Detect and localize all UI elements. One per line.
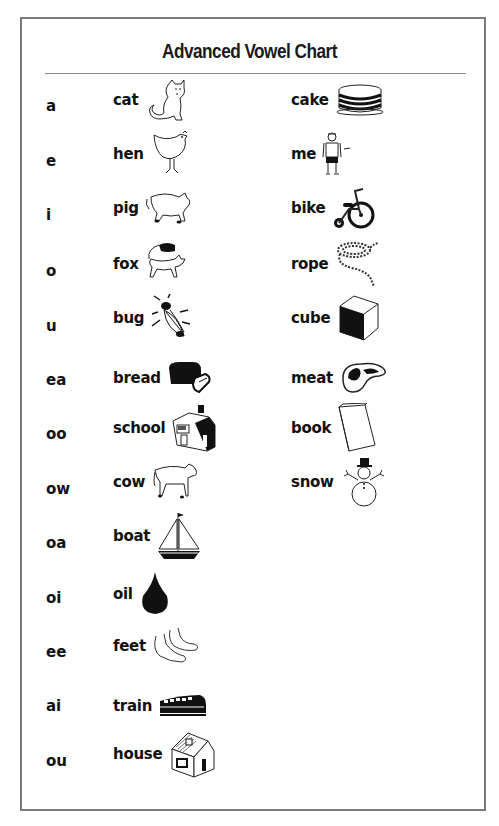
- word-label: boat: [113, 527, 150, 545]
- hen-icon: [150, 131, 194, 177]
- sound-label: oo: [46, 425, 67, 443]
- sound-label: u: [46, 317, 57, 335]
- word-label: house: [113, 745, 162, 763]
- word-entry: oil: [113, 574, 171, 614]
- word-label: cow: [113, 473, 145, 491]
- sound-label: oi: [46, 589, 61, 607]
- word-entry: train: [113, 686, 206, 726]
- sailboat-icon: [156, 511, 202, 561]
- sound-label: ee: [46, 643, 66, 661]
- word-label: meat: [291, 369, 333, 387]
- snowman-icon: [340, 456, 388, 508]
- word-entry: cube: [291, 298, 380, 338]
- sound-label: o: [46, 262, 56, 280]
- feet-icon: [152, 628, 200, 664]
- word-entry: hen: [113, 134, 194, 174]
- book-icon: [337, 403, 377, 453]
- bread-icon: [167, 362, 211, 394]
- word-entry: boat: [113, 516, 202, 556]
- word-label: rope: [291, 255, 328, 273]
- word-label: pig: [113, 199, 139, 217]
- word-entry: cake: [291, 80, 385, 120]
- word-label: snow: [291, 473, 334, 491]
- page-title: Advanced Vowel Chart: [35, 40, 464, 63]
- sound-label: ai: [46, 697, 61, 715]
- word-entry: pig: [113, 188, 191, 228]
- word-label: feet: [113, 637, 146, 655]
- rope-icon: [334, 238, 384, 290]
- word-label: bike: [291, 199, 325, 217]
- school-icon: [171, 403, 217, 453]
- tricycle-icon: [331, 185, 377, 231]
- word-label: train: [113, 697, 152, 715]
- sound-label: a: [46, 97, 56, 115]
- bug-icon: [150, 294, 196, 342]
- word-entry: meat: [291, 358, 389, 398]
- pig-icon: [145, 189, 191, 227]
- sound-label: ou: [46, 752, 67, 770]
- word-label: oil: [113, 585, 133, 603]
- word-label: book: [291, 419, 331, 437]
- fox-icon: [145, 241, 191, 287]
- word-label: cake: [291, 91, 329, 109]
- word-entry: bug: [113, 298, 196, 338]
- word-label: school: [113, 419, 165, 437]
- cube-icon: [336, 294, 380, 342]
- oil-drop-icon: [139, 572, 171, 616]
- house-icon: [168, 729, 216, 779]
- sound-label: oa: [46, 534, 66, 552]
- word-entry: feet: [113, 626, 200, 666]
- word-entry: cow: [113, 462, 199, 502]
- cow-icon: [151, 462, 199, 502]
- cat-icon: [144, 76, 190, 124]
- sound-label: ea: [46, 371, 66, 389]
- word-label: cube: [291, 309, 330, 327]
- word-label: bread: [113, 369, 161, 387]
- word-entry: school: [113, 408, 217, 448]
- sound-label: i: [46, 206, 51, 224]
- word-entry: fox: [113, 244, 191, 284]
- word-entry: rope: [291, 244, 384, 284]
- steak-icon: [339, 362, 389, 394]
- cake-icon: [335, 83, 385, 117]
- word-entry: bread: [113, 358, 211, 398]
- title-divider: [45, 73, 466, 74]
- word-entry: bike: [291, 188, 377, 228]
- train-icon: [158, 693, 206, 719]
- word-entry: me: [291, 134, 352, 174]
- word-label: me: [291, 145, 316, 163]
- boy-icon: [322, 131, 352, 177]
- sound-label: ow: [46, 480, 70, 498]
- word-entry: cat: [113, 80, 190, 120]
- word-label: fox: [113, 255, 139, 273]
- sound-label: e: [46, 152, 56, 170]
- word-entry: house: [113, 734, 216, 774]
- chart-frame: [20, 17, 486, 811]
- word-entry: book: [291, 408, 377, 448]
- word-label: cat: [113, 91, 138, 109]
- word-label: hen: [113, 145, 144, 163]
- word-entry: snow: [291, 462, 388, 502]
- word-label: bug: [113, 309, 144, 327]
